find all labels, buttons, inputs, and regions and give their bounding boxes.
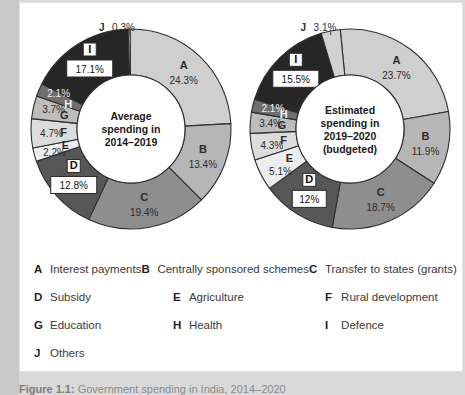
slice-letter-c: C [377, 186, 385, 198]
slice-value-b: 13.4% [189, 159, 217, 170]
legend-row: J Others [34, 347, 450, 375]
slice-letter-d: D [305, 173, 313, 185]
slice-value-d: 12% [299, 194, 319, 205]
slice-value-i: 15.5% [282, 74, 310, 85]
donut-chart-average-spending: A24.3%B13.4%C19.4%D12.8%2.2%E4.7%F3.7%G2… [20, 9, 242, 249]
legend-key: C [309, 263, 318, 275]
legend-label: Agriculture [189, 291, 244, 303]
legend-key: A [34, 263, 43, 275]
legend-label: Centrally sponsored schemes [157, 263, 309, 275]
legend-item-i: I Defence [325, 319, 450, 331]
legend-item-a: A Interest payments [34, 263, 141, 275]
legend-label: Defence [341, 319, 384, 331]
slice-letter-e: E [62, 139, 69, 151]
legend-label: Transfer to states (grants) [325, 263, 457, 275]
slice-letter-h: H [280, 108, 288, 120]
legend-label: Health [189, 319, 222, 331]
legend-key: J [34, 347, 43, 359]
legend-label: Rural development [341, 291, 438, 303]
legend-key: H [173, 319, 182, 331]
legend: A Interest payments B Centrally sponsore… [20, 253, 464, 371]
slice-value-c: 18.7% [366, 202, 394, 213]
slice-letter-g: G [60, 109, 69, 121]
slice-letter-b: B [422, 130, 430, 142]
legend-key: B [141, 263, 150, 275]
legend-item-f: F Rural development [325, 291, 450, 303]
slice-value-d: 12.8% [60, 180, 88, 191]
slice-value-a: 23.7% [382, 70, 410, 81]
slice-value-c: 19.4% [130, 207, 158, 218]
callout-value-j: 3.1% [314, 22, 337, 33]
legend-row: D Subsidy E Agriculture F Rural developm… [34, 291, 450, 319]
slice-value-a: 24.3% [170, 75, 198, 86]
slice-letter-f: F [280, 134, 287, 146]
donut-center-title-line: (budgeted) [323, 143, 377, 155]
legend-label: Interest payments [50, 263, 141, 275]
figure-caption: Figure 1.1: Government spending in India… [19, 379, 463, 395]
charts-container: A24.3%B13.4%C19.4%D12.8%2.2%E4.7%F3.7%G2… [20, 3, 464, 251]
legend-item-c: C Transfer to states (grants) [309, 263, 457, 275]
donut-svg-left: A24.3%B13.4%C19.4%D12.8%2.2%E4.7%F3.7%G2… [20, 9, 242, 249]
legend-item-e: E Agriculture [173, 291, 325, 303]
figure-panel: A24.3%B13.4%C19.4%D12.8%2.2%E4.7%F3.7%G2… [19, 2, 463, 372]
caption-prefix: Figure 1.1: [19, 383, 75, 395]
callout-letter-j: J [301, 22, 307, 33]
figure-page: A24.3%B13.4%C19.4%D12.8%2.2%E4.7%F3.7%G2… [0, 0, 465, 395]
slice-letter-e: E [286, 152, 293, 164]
legend-item-h: H Health [173, 319, 325, 331]
slice-value-b: 11.9% [412, 146, 440, 157]
slice-letter-c: C [140, 191, 148, 203]
legend-label: Education [50, 319, 101, 331]
slice-letter-d: D [70, 159, 78, 171]
legend-item-d: D Subsidy [34, 291, 173, 303]
donut-center-title-line: 2019–2020 [324, 130, 377, 142]
slice-letter-f: F [60, 126, 67, 138]
donut-center-title-line: Estimated [325, 104, 375, 116]
slice-letter-a: A [393, 54, 401, 66]
legend-key: E [173, 291, 182, 303]
slice-letter-g: G [278, 119, 287, 131]
legend-row: A Interest payments B Centrally sponsore… [34, 263, 450, 291]
slice-letter-h: H [64, 98, 72, 110]
legend-key: G [34, 319, 43, 331]
slice-letter-a: A [180, 59, 188, 71]
callout-letter-j: J [99, 22, 105, 33]
donut-svg-right: A23.7%B11.9%C18.7%D12%5.1%E4.3%F3.4%G2.1… [239, 9, 461, 249]
legend-item-b: B Centrally sponsored schemes [141, 263, 309, 275]
donut-center-title-line: spending in [102, 123, 161, 135]
caption-text: Government spending in India, 2014–2020 [78, 383, 286, 395]
donut-center-title-line: spending in [321, 117, 380, 129]
legend-row: G Education H Health I Defence [34, 319, 450, 347]
donut-center-title-line: Average [110, 110, 151, 122]
slice-letter-i: I [294, 53, 297, 65]
slice-value-i: 17.1% [76, 64, 104, 75]
legend-key: I [325, 319, 334, 331]
legend-label: Subsidy [50, 291, 91, 303]
legend-item-j: J Others [34, 347, 173, 359]
legend-key: F [325, 291, 334, 303]
legend-item-g: G Education [34, 319, 173, 331]
page-margin-strip [0, 0, 19, 395]
donut-chart-estimated-spending: A23.7%B11.9%C18.7%D12%5.1%E4.3%F3.4%G2.1… [239, 9, 461, 249]
legend-label: Others [50, 347, 85, 359]
slice-letter-i: I [88, 43, 91, 55]
slice-value-e: 5.1% [269, 166, 292, 177]
callout-value-j: 0.3% [112, 22, 135, 33]
donut-center-title-line: 2014–2019 [105, 136, 158, 148]
slice-letter-b: B [199, 143, 207, 155]
legend-key: D [34, 291, 43, 303]
